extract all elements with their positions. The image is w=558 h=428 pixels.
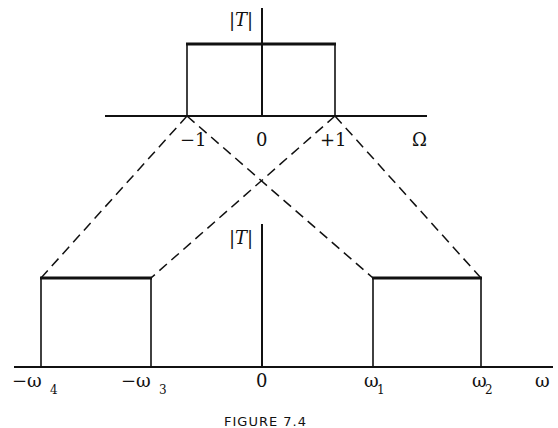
bottom-y-label: |T| (229, 227, 253, 249)
tick-neg-w3: −ω 3 (121, 370, 167, 397)
tick-neg-w4: −ω 4 (12, 370, 58, 397)
bandpass-transformation-diagram: |T| −1 0 +1 Ω |T| −ω 4 − (0, 0, 558, 428)
map-plus1-to-neg-w4 (151, 116, 335, 278)
tick-w1: ω 1 (364, 370, 385, 397)
top-y-label: |T| (229, 9, 253, 31)
bottom-x-label: ω (535, 370, 550, 391)
top-x-label: Ω (412, 129, 427, 150)
map-plus1-to-w2 (335, 116, 481, 278)
svg-text:1: 1 (377, 383, 385, 397)
top-tick-zero: 0 (256, 129, 267, 150)
figure-caption: FIGURE 7.4 (224, 414, 307, 428)
top-tick-minus1: −1 (180, 129, 207, 150)
bottom-plot: |T| −ω 4 −ω 3 0 ω 1 ω 2 ω (12, 224, 553, 397)
svg-text:4: 4 (50, 383, 58, 397)
svg-text:2: 2 (485, 383, 493, 397)
tick-zero: 0 (256, 370, 267, 391)
map-minus1-to-neg-w3 (41, 116, 187, 278)
top-plot: |T| −1 0 +1 Ω (105, 8, 427, 150)
top-tick-plus1: +1 (320, 129, 347, 150)
tick-w2: ω 2 (472, 370, 493, 397)
svg-text:−ω: −ω (121, 370, 151, 391)
svg-text:−ω: −ω (12, 370, 42, 391)
svg-text:3: 3 (159, 383, 167, 397)
